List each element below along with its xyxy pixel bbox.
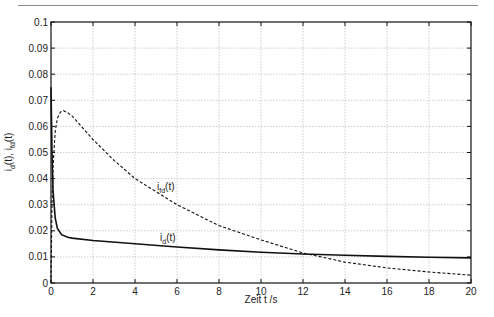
svg-text:id(t), ifd(t): id(t), ifd(t) xyxy=(3,133,16,172)
y-tick-label: 0.06 xyxy=(29,121,49,132)
y-tick-label: 0.07 xyxy=(29,95,49,106)
y-tick-label: 0.09 xyxy=(29,43,49,54)
x-tick-label: 4 xyxy=(132,286,138,297)
y-tick-label: 0 xyxy=(42,278,48,289)
y-tick-label: 0.1 xyxy=(34,17,48,28)
annotation-ifd: ifd(t) xyxy=(157,181,175,194)
y-tick-label: 0.03 xyxy=(29,199,49,210)
x-tick-label: 6 xyxy=(174,286,180,297)
x-tick-label: 18 xyxy=(423,286,435,297)
grid-lines xyxy=(51,22,471,283)
annotation-id: id(t) xyxy=(160,232,176,245)
y-tick-label: 0.04 xyxy=(29,173,49,184)
y-tick-label: 0.08 xyxy=(29,69,49,80)
y-axis-label: id(t), ifd(t) xyxy=(3,133,16,172)
y-tick-label: 0.02 xyxy=(29,225,49,236)
line-chart: 0246810121416182000.010.020.030.040.050.… xyxy=(0,0,494,317)
x-tick-label: 20 xyxy=(465,286,477,297)
x-tick-label: 0 xyxy=(48,286,54,297)
x-axis-label: Zeit t /s xyxy=(245,294,278,305)
x-tick-label: 16 xyxy=(381,286,393,297)
axis-ticks: 0246810121416182000.010.020.030.040.050.… xyxy=(29,17,477,298)
x-tick-label: 12 xyxy=(297,286,309,297)
y-tick-label: 0.05 xyxy=(29,147,49,158)
x-tick-label: 8 xyxy=(216,286,222,297)
x-tick-label: 2 xyxy=(90,286,96,297)
y-tick-label: 0.01 xyxy=(29,251,49,262)
x-tick-label: 14 xyxy=(339,286,351,297)
